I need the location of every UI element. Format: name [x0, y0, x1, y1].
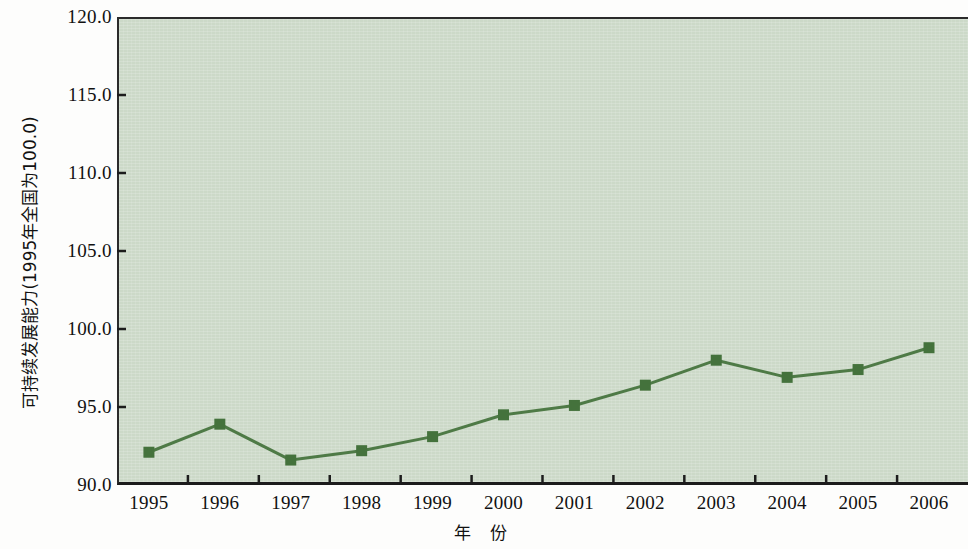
x-axis-tick-label: 2001	[534, 492, 614, 514]
data-point-marker	[427, 431, 438, 442]
data-point-marker	[924, 342, 935, 353]
series-line	[149, 348, 929, 460]
x-axis-tick-label: 1997	[251, 492, 331, 514]
x-axis-tick-label: 2005	[818, 492, 898, 514]
data-point-marker	[853, 364, 864, 375]
data-point-marker	[356, 445, 367, 456]
data-point-marker	[782, 372, 793, 383]
x-axis-tick-label: 2003	[676, 492, 756, 514]
x-axis-tick-label: 2006	[889, 492, 968, 514]
data-point-marker	[143, 447, 154, 458]
x-axis-tick-label: 1999	[393, 492, 473, 514]
data-point-marker	[640, 380, 651, 391]
x-axis-tick-label: 2002	[605, 492, 685, 514]
x-axis-tick-label: 1995	[109, 492, 189, 514]
data-point-marker	[711, 355, 722, 366]
x-axis-tick-label: 1998	[322, 492, 402, 514]
data-point-marker	[569, 400, 580, 411]
sustainable-development-capacity-line-chart: 90.095.0100.0105.0110.0115.0120.0 可持续发展能…	[0, 0, 968, 549]
x-axis-tick-label: 2004	[747, 492, 827, 514]
data-point-marker	[214, 419, 225, 430]
data-point-marker	[498, 409, 509, 420]
data-point-marker	[285, 455, 296, 466]
chart-plot-svg	[0, 0, 968, 549]
x-axis-tick-label: 1996	[180, 492, 260, 514]
x-axis-tick-label: 2000	[463, 492, 543, 514]
